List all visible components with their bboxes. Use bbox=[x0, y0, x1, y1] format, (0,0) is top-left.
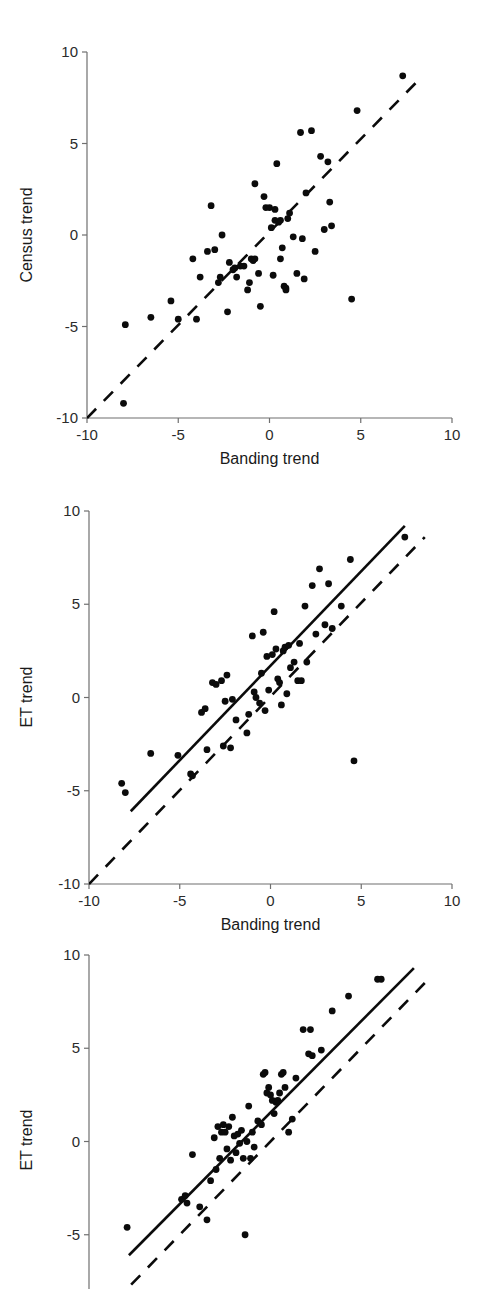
data-point bbox=[328, 222, 335, 229]
y-tick-label: 10 bbox=[63, 946, 80, 963]
x-tick-label: 5 bbox=[357, 426, 365, 443]
y-tick-label: 0 bbox=[70, 226, 78, 243]
data-point bbox=[285, 1129, 292, 1136]
data-point bbox=[282, 1084, 289, 1091]
regression-line bbox=[131, 526, 405, 811]
data-point bbox=[298, 677, 305, 684]
data-point bbox=[301, 276, 308, 283]
panel-et-vs-banding: -10-50510-10-50510ET trendBanding trend bbox=[0, 470, 503, 890]
data-point bbox=[175, 316, 182, 323]
data-point bbox=[224, 1146, 231, 1153]
x-ticks-0: -10-50510 bbox=[76, 418, 460, 443]
data-point bbox=[347, 556, 354, 563]
data-point bbox=[207, 1177, 214, 1184]
data-point bbox=[196, 1203, 203, 1210]
y-tick-label: 5 bbox=[70, 135, 78, 152]
panel-et-vs-census: -50510ET trend bbox=[0, 890, 503, 1289]
data-point bbox=[265, 687, 272, 694]
data-point bbox=[348, 296, 355, 303]
data-point bbox=[378, 976, 385, 983]
data-point bbox=[233, 274, 240, 281]
data-point bbox=[318, 1047, 325, 1054]
data-point bbox=[220, 743, 227, 750]
data-point bbox=[303, 190, 310, 197]
y-ticks-1: -10-50510 bbox=[58, 502, 89, 892]
data-point bbox=[279, 244, 286, 251]
data-point bbox=[202, 705, 209, 712]
y-tick-label: 10 bbox=[61, 43, 78, 60]
data-point bbox=[326, 199, 333, 206]
data-point bbox=[168, 297, 175, 304]
data-point bbox=[233, 1149, 240, 1156]
y-tick-label: 5 bbox=[72, 1039, 80, 1056]
data-point bbox=[268, 224, 275, 231]
data-point bbox=[325, 158, 332, 165]
data-point bbox=[262, 1069, 269, 1076]
data-point bbox=[238, 1127, 245, 1134]
y-tick-label: 0 bbox=[72, 1133, 80, 1150]
y-axis-label: ET trend bbox=[18, 1109, 35, 1170]
data-point bbox=[258, 670, 265, 677]
data-point bbox=[293, 270, 300, 277]
data-point bbox=[229, 1114, 236, 1121]
data-point bbox=[283, 287, 290, 294]
scatter-plot-2: -50510ET trend bbox=[0, 890, 503, 1289]
data-point bbox=[236, 1140, 243, 1147]
data-point bbox=[278, 702, 285, 709]
x-tick-label: -5 bbox=[172, 426, 185, 443]
data-point bbox=[189, 1151, 196, 1158]
data-point bbox=[213, 1166, 220, 1173]
data-point bbox=[245, 1103, 252, 1110]
plot-area-0 bbox=[87, 72, 423, 418]
data-point bbox=[287, 664, 294, 671]
data-point bbox=[297, 129, 304, 136]
data-point bbox=[182, 1192, 189, 1199]
data-point bbox=[286, 210, 293, 217]
data-point bbox=[224, 308, 231, 315]
data-point bbox=[253, 694, 260, 701]
data-point bbox=[124, 1224, 131, 1231]
data-points-2 bbox=[124, 976, 385, 1238]
data-point bbox=[303, 659, 310, 666]
data-point bbox=[229, 696, 236, 703]
data-point bbox=[269, 651, 276, 658]
y-axis-label: Census trend bbox=[18, 187, 35, 282]
data-point bbox=[252, 255, 259, 262]
data-point bbox=[293, 1075, 300, 1082]
data-point bbox=[322, 621, 329, 628]
y-ticks-2: -50510 bbox=[63, 946, 89, 1243]
data-point bbox=[273, 160, 280, 167]
reference-line bbox=[89, 537, 425, 884]
data-point bbox=[193, 316, 200, 323]
y-tick-label: 0 bbox=[72, 689, 80, 706]
data-point bbox=[265, 1084, 272, 1091]
data-point bbox=[120, 400, 127, 407]
data-point bbox=[270, 272, 277, 279]
x-tick-label: 0 bbox=[265, 426, 273, 443]
data-point bbox=[247, 1155, 254, 1162]
data-point bbox=[242, 1231, 249, 1238]
data-point bbox=[256, 700, 263, 707]
data-point bbox=[290, 233, 297, 240]
data-point bbox=[299, 235, 306, 242]
data-point bbox=[325, 580, 332, 587]
data-point bbox=[283, 690, 290, 697]
data-point bbox=[345, 993, 352, 1000]
data-point bbox=[316, 565, 323, 572]
data-point bbox=[276, 1090, 283, 1097]
data-point bbox=[189, 255, 196, 262]
data-point bbox=[175, 752, 182, 759]
data-point bbox=[208, 202, 215, 209]
plot-area-1 bbox=[89, 526, 425, 884]
y-ticks-0: -10-50510 bbox=[56, 43, 87, 426]
data-point bbox=[204, 1216, 211, 1223]
y-tick-label: 10 bbox=[63, 502, 80, 519]
data-point bbox=[249, 633, 256, 640]
data-point bbox=[217, 274, 224, 281]
data-point bbox=[329, 1008, 336, 1015]
x-axis-label: Banding trend bbox=[220, 450, 320, 467]
data-point bbox=[211, 246, 218, 253]
y-tick-label: -5 bbox=[67, 782, 80, 799]
data-point bbox=[399, 72, 406, 79]
data-point bbox=[277, 255, 284, 262]
